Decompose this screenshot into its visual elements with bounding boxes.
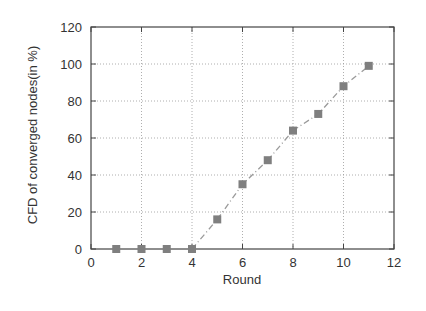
grid-lines — [91, 27, 394, 249]
data-point-marker — [289, 127, 297, 135]
x-tick-label: 8 — [289, 255, 296, 270]
data-point-marker — [264, 156, 272, 164]
y-tick-label: 100 — [60, 57, 82, 72]
x-tick-label: 2 — [138, 255, 145, 270]
data-point-marker — [340, 82, 348, 90]
data-point-marker — [188, 245, 196, 253]
data-point-marker — [138, 245, 146, 253]
y-tick-label: 0 — [75, 242, 82, 257]
y-tick-label: 80 — [68, 94, 82, 109]
y-tick-label: 40 — [68, 168, 82, 183]
x-tick-label: 0 — [87, 255, 94, 270]
x-axis-label: Round — [223, 272, 261, 287]
x-tick-label: 10 — [336, 255, 350, 270]
cfd-line-chart: 024681012 020406080100120 Round CFD of c… — [0, 0, 426, 311]
y-tick-labels: 020406080100120 — [60, 20, 82, 257]
x-tick-label: 12 — [387, 255, 401, 270]
y-tick-label: 120 — [60, 20, 82, 35]
y-tick-label: 20 — [68, 205, 82, 220]
data-point-marker — [163, 245, 171, 253]
x-tick-label: 4 — [188, 255, 195, 270]
data-point-marker — [365, 62, 373, 70]
data-point-marker — [239, 180, 247, 188]
y-axis-label: CFD of converged nodes(in %) — [25, 46, 40, 224]
x-tick-labels: 024681012 — [87, 255, 401, 270]
y-tick-label: 60 — [68, 131, 82, 146]
data-point-marker — [213, 215, 221, 223]
data-point-marker — [112, 245, 120, 253]
x-tick-label: 6 — [239, 255, 246, 270]
data-point-marker — [314, 110, 322, 118]
